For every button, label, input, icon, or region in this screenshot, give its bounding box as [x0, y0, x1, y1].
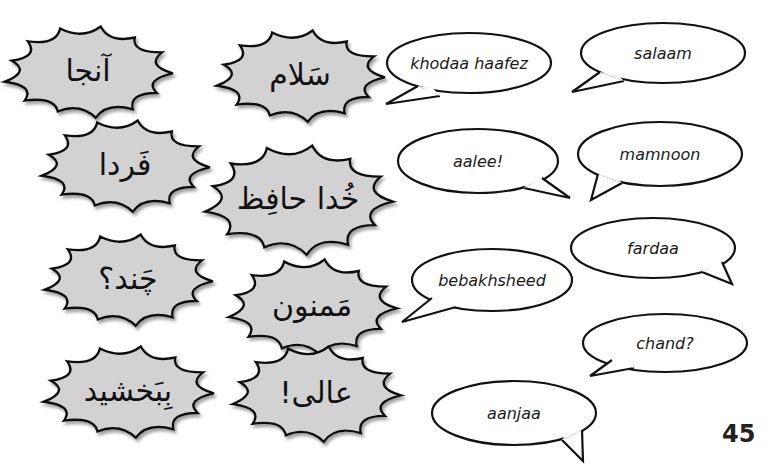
transliteration-chand: chand? — [636, 334, 694, 353]
farsi-word-khodaahaafez: خُدا حافِظ — [237, 181, 360, 216]
transliteration-aanjaa: aanjaa — [487, 404, 541, 423]
farsi-word-chand: چَند؟ — [98, 261, 157, 296]
farsi-word-salaam: سَلام — [269, 57, 331, 92]
transliteration-fardaa: fardaa — [627, 239, 679, 258]
transliteration-mamnoon: mamnoon — [620, 145, 701, 164]
transliteration-aalee: aalee! — [453, 152, 503, 171]
farsi-word-aanjaa: آنجا — [65, 53, 110, 88]
farsi-word-aalee: عالی! — [279, 375, 352, 410]
farsi-word-mamnoon: مَمنون — [272, 288, 352, 323]
farsi-word-fardaa: فَردا — [99, 147, 152, 182]
transliteration-salaam: salaam — [634, 44, 692, 63]
page-number: 45 — [722, 420, 755, 448]
worksheet-page: آنجاسَلامفَرداخُدا حافِظچَند؟مَمنونبِبَخ… — [0, 0, 780, 472]
transliteration-khodaa-haafez: khodaa haafez — [410, 54, 528, 73]
transliteration-bebakhsheed: bebakhsheed — [438, 271, 546, 290]
farsi-word-bebakhsheed: بِبَخشید — [84, 373, 172, 408]
